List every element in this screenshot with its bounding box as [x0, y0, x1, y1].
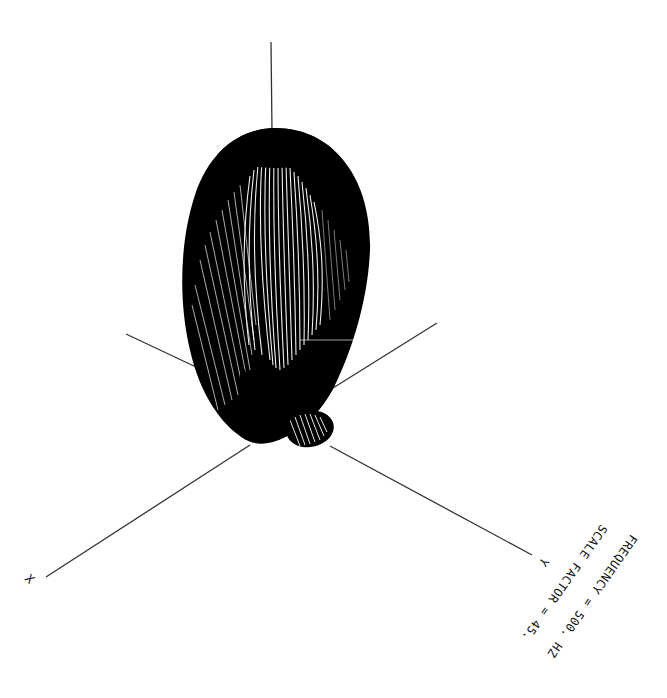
main-lobe — [182, 128, 370, 444]
z-axis — [271, 42, 272, 132]
x-axis-positive — [46, 445, 250, 577]
x-axis-negative — [126, 334, 196, 367]
y-axis-positive — [330, 446, 532, 555]
radiation-pattern-plot — [0, 0, 667, 698]
